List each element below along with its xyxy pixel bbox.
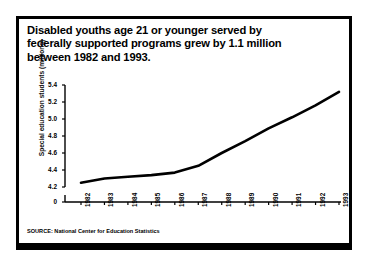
- plot-area: Special education students (millions) 5.…: [19, 19, 355, 249]
- chart-figure: Disabled youths age 21 or younger served…: [16, 16, 352, 246]
- source-note: SOURCE: National Center for Education St…: [27, 228, 160, 234]
- axis-lines: [65, 85, 341, 202]
- bottom-rule: [16, 246, 352, 250]
- line-chart-svg: [19, 19, 355, 249]
- data-series-line: [81, 92, 339, 183]
